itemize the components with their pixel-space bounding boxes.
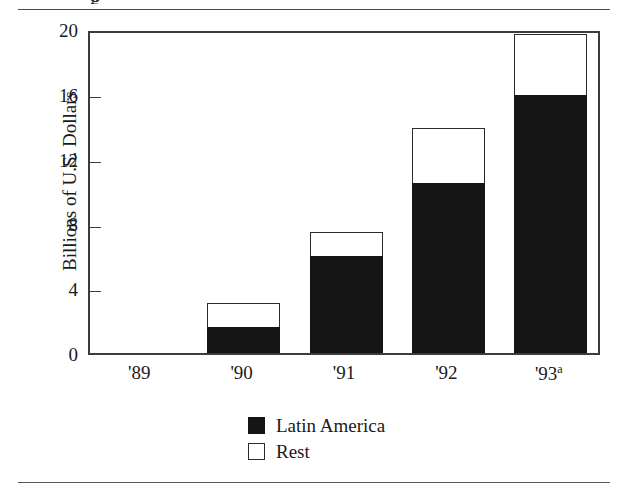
bar-segment-latin-america	[310, 256, 383, 353]
legend-label-latin-america: Latin America	[276, 416, 385, 435]
legend-item-latin-america: Latin America	[248, 412, 385, 438]
y-tick-mark	[90, 291, 101, 292]
x-tick-label: '90	[192, 362, 292, 384]
x-tick-label: '93a	[499, 362, 599, 385]
y-tick-mark	[90, 162, 101, 163]
x-tick-label: '91	[294, 362, 394, 384]
legend: Latin America Rest	[248, 412, 385, 464]
y-tick-label: 16	[22, 86, 78, 105]
top-rule	[18, 9, 610, 10]
y-tick-mark	[90, 227, 101, 228]
figure: g Billions of U.S. Dollars 048121620 '89…	[0, 0, 621, 493]
plot-area	[88, 31, 600, 355]
x-tick-label-superscript: a	[557, 362, 562, 376]
y-tick-label: 8	[22, 215, 78, 234]
y-tick-mark	[90, 97, 101, 98]
legend-item-rest: Rest	[248, 438, 385, 464]
bar-segment-latin-america	[207, 327, 280, 353]
hollow-square-icon	[248, 443, 265, 460]
y-tick-label: 12	[22, 151, 78, 170]
bar-segment-latin-america	[412, 183, 485, 353]
legend-label-rest: Rest	[276, 442, 310, 461]
bottom-rule	[18, 482, 610, 483]
bar-segment-latin-america	[514, 95, 587, 353]
filled-square-icon	[248, 417, 265, 434]
x-tick-label: '89	[89, 362, 189, 384]
y-tick-label: 20	[22, 21, 78, 40]
bar-90	[207, 303, 280, 353]
y-tick-label: 4	[22, 280, 78, 299]
bar-91	[310, 232, 383, 354]
clipped-title-descender: g	[90, 0, 101, 4]
y-tick-label: 0	[22, 345, 78, 364]
bar-92	[412, 128, 485, 353]
bar-93a	[514, 34, 587, 353]
x-tick-label: '92	[396, 362, 496, 384]
